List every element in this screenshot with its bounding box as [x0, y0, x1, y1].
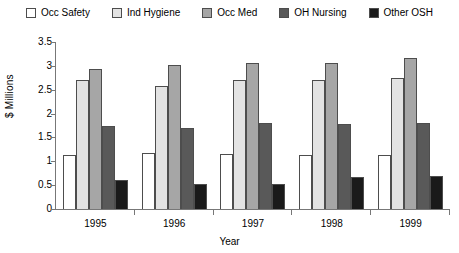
bar-group — [56, 42, 135, 209]
x-axis-tick-mark — [449, 209, 450, 215]
legend-item-occ-med: Occ Med — [202, 8, 257, 18]
y-axis-tick-mark — [51, 161, 56, 162]
legend-label-occ-safety: Occ Safety — [41, 8, 90, 18]
legend-swatch-occ-safety — [26, 8, 36, 18]
legend-label-oh-nursing: OH Nursing — [294, 8, 346, 18]
legend-swatch-occ-med — [202, 8, 212, 18]
bar — [404, 58, 417, 209]
x-axis-tick: 1995 — [56, 218, 135, 229]
bar — [259, 123, 272, 209]
bar-group — [292, 42, 371, 209]
y-axis-tick-mark — [51, 42, 56, 43]
bar-group — [214, 42, 293, 209]
y-axis-tick-mark — [51, 114, 56, 115]
x-axis-tick: 1999 — [371, 218, 450, 229]
bar — [168, 65, 181, 209]
y-axis-tick: 1.5 — [38, 132, 52, 142]
bar — [220, 154, 233, 209]
bar — [155, 86, 168, 209]
legend-label-occ-med: Occ Med — [217, 8, 257, 18]
bar — [312, 80, 325, 209]
x-axis-tick-mark — [134, 209, 135, 215]
bar — [325, 63, 338, 209]
legend-item-ind-hygiene: Ind Hygiene — [112, 8, 180, 18]
bar — [272, 184, 285, 209]
bar — [233, 80, 246, 209]
legend-item-occ-safety: Occ Safety — [26, 8, 90, 18]
bar — [378, 155, 391, 209]
legend-swatch-other-osh — [369, 8, 379, 18]
legend-label-other-osh: Other OSH — [384, 8, 433, 18]
bar — [417, 123, 430, 209]
bar — [351, 177, 364, 209]
bar — [76, 80, 89, 209]
bar — [430, 176, 443, 209]
legend-swatch-oh-nursing — [279, 8, 289, 18]
y-axis-tick-labels: 00.511.522.533.5 — [24, 40, 52, 215]
y-axis-tick-mark — [51, 90, 56, 91]
bar — [181, 128, 194, 209]
x-axis-line — [55, 209, 450, 210]
y-axis-tick: 2.5 — [38, 85, 52, 95]
bar — [115, 180, 128, 209]
bar — [89, 69, 102, 209]
bars-container — [56, 42, 450, 209]
x-axis-tick-mark — [213, 209, 214, 215]
bar — [63, 155, 76, 209]
bar — [102, 126, 115, 209]
y-axis-tick-mark — [51, 137, 56, 138]
legend-item-other-osh: Other OSH — [369, 8, 433, 18]
legend-item-oh-nursing: OH Nursing — [279, 8, 346, 18]
bar — [142, 153, 155, 209]
bar — [338, 124, 351, 209]
x-axis-tick: 1998 — [292, 218, 371, 229]
plot-area: $ Millions 00.511.522.533.5 199519961997… — [0, 40, 459, 253]
x-axis-tick: 1996 — [135, 218, 214, 229]
x-axis-tick-mark — [291, 209, 292, 215]
chart-legend: Occ Safety Ind Hygiene Occ Med OH Nursin… — [0, 8, 459, 18]
bar-chart: Occ Safety Ind Hygiene Occ Med OH Nursin… — [0, 0, 459, 253]
axes — [55, 42, 450, 214]
x-axis-tick: 1997 — [214, 218, 293, 229]
bar-group — [371, 42, 450, 209]
y-axis-tick: 0.5 — [38, 180, 52, 190]
y-axis-tick: 3.5 — [38, 37, 52, 47]
x-axis-label: Year — [0, 236, 459, 247]
y-axis-label: $ Millions — [4, 74, 15, 118]
y-axis-tick-mark — [51, 66, 56, 67]
legend-swatch-ind-hygiene — [112, 8, 122, 18]
bar-group — [135, 42, 214, 209]
x-axis-tick-mark — [370, 209, 371, 215]
bar — [194, 184, 207, 209]
y-axis-tick-mark — [51, 209, 56, 210]
x-axis-tick-labels: 19951996199719981999 — [56, 218, 450, 229]
y-axis-tick-mark — [51, 185, 56, 186]
bar — [246, 63, 259, 209]
bar — [391, 78, 404, 209]
bar — [299, 155, 312, 209]
legend-label-ind-hygiene: Ind Hygiene — [127, 8, 180, 18]
